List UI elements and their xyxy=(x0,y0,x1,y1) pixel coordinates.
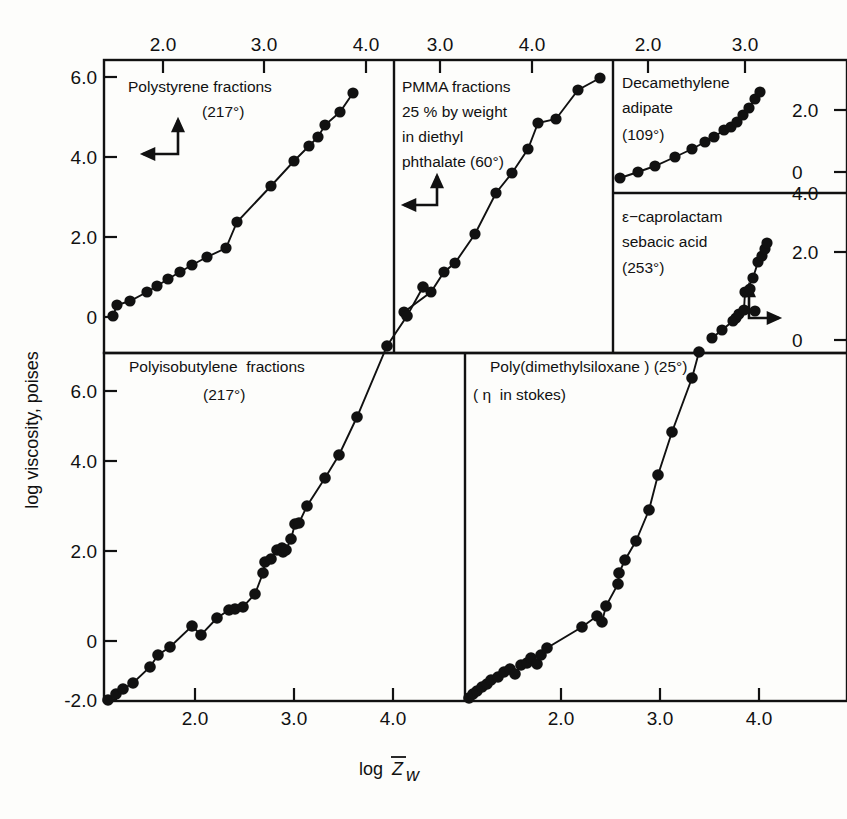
left-tick-label: 2.0 xyxy=(71,227,97,248)
x-axis-title-prefix: log xyxy=(359,759,388,779)
right-tick-label: 0 xyxy=(792,162,803,183)
panel-title-line: Polyisobutylene fractions xyxy=(129,358,305,375)
left-tick-label: 0 xyxy=(86,307,97,328)
panel-title-line: ε−caprolactam xyxy=(622,208,722,225)
panel-title-line: 25 % by weight xyxy=(402,103,508,120)
top-tick-label: 2.0 xyxy=(150,34,176,55)
bottom-tick-label: 2.0 xyxy=(548,708,574,729)
top-tick-label: 3.0 xyxy=(427,34,453,55)
panel-title-line: (109°) xyxy=(622,126,664,143)
panel-title-line: Polystyrene fractions xyxy=(128,78,272,95)
left-tick-label: 4.0 xyxy=(71,147,97,168)
panel-title-line: (217°) xyxy=(202,103,244,120)
left-tick-label: 4.0 xyxy=(71,451,97,472)
bottom-tick-label: 4.0 xyxy=(746,708,772,729)
bottom-tick-label: 3.0 xyxy=(281,708,307,729)
top-tick-label: 3.0 xyxy=(732,34,758,55)
top-tick-label: 3.0 xyxy=(251,34,277,55)
top-tick-label: 4.0 xyxy=(519,34,545,55)
right-tick-label: 0 xyxy=(792,330,803,351)
right-tick-label: 2.0 xyxy=(792,242,818,263)
bottom-tick-label: 2.0 xyxy=(182,708,208,729)
panel-title-line: ( η in stokes) xyxy=(473,386,566,403)
left-tick-label: 6.0 xyxy=(71,381,97,402)
panel-title-line: Decamethylene xyxy=(622,74,730,91)
left-tick-label: -2.0 xyxy=(64,690,97,711)
panel-title-line: PMMA fractions xyxy=(402,78,511,95)
figure-background xyxy=(0,0,847,819)
panel-title-line: in diethyl xyxy=(402,128,463,145)
left-tick-label: 2.0 xyxy=(71,541,97,562)
panel-title-line: phthalate (60°) xyxy=(402,153,504,170)
right-tick-label: 2.0 xyxy=(792,100,818,121)
viscosity-vs-chain-length-figure: 2.0 3.0 4.0 3.0 4.0 2.0 3.0 2.0 3.0 4.0 … xyxy=(0,0,847,819)
y-axis-title: log viscosity, poises xyxy=(22,351,42,509)
left-tick-label: 6.0 xyxy=(71,67,97,88)
right-tick-label: 4.0 xyxy=(792,183,818,204)
x-axis-title-subscript: w xyxy=(406,765,420,785)
panel-title-line: (253°) xyxy=(622,259,664,276)
panel-title-line: adipate xyxy=(622,99,673,116)
bottom-tick-label: 4.0 xyxy=(380,708,406,729)
panel-title-line: (217°) xyxy=(203,386,245,403)
top-tick-label: 4.0 xyxy=(353,34,379,55)
left-tick-label: 0 xyxy=(86,631,97,652)
panel-title-line: sebacic acid xyxy=(622,233,707,250)
panel-title-line: Poly(dimethylsiloxane ) (25°) xyxy=(490,358,687,375)
bottom-tick-label: 3.0 xyxy=(647,708,673,729)
top-tick-label: 2.0 xyxy=(635,34,661,55)
x-axis-title-symbol: Z xyxy=(391,759,404,779)
